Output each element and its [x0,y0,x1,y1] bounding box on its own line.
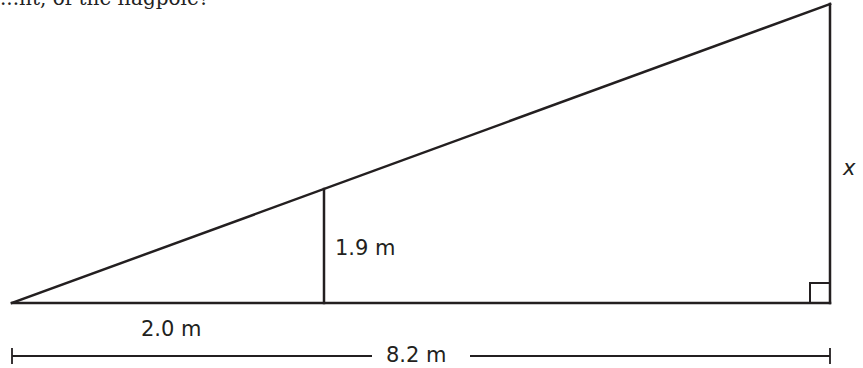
label-inner-base: 2.0 m [141,319,202,340]
label-inner-height: 1.9 m [335,238,396,259]
hypotenuse-line [12,4,830,303]
label-total-base: 8.2 m [386,345,447,366]
right-angle-marker [810,283,830,303]
label-x: x [843,158,855,179]
similar-triangles-diagram [0,0,863,368]
